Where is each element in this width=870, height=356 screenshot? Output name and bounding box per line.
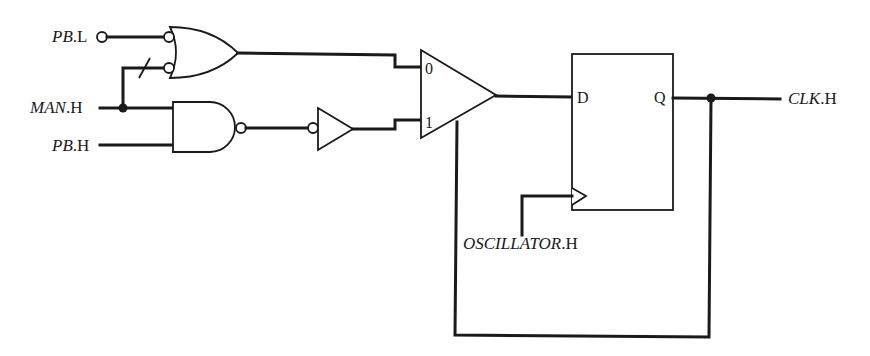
ff-d-label: D xyxy=(577,89,589,106)
buffer-gate xyxy=(308,108,353,150)
d-flipflop: D Q xyxy=(572,54,673,210)
circuit-diagram: PB.L MAN.H PB.H 0 1 D Q xyxy=(0,0,870,356)
junction-dot-man xyxy=(119,104,128,113)
or-input-bubble-a xyxy=(164,32,174,42)
or-gate xyxy=(164,27,238,78)
label-pb-l: PB.L xyxy=(51,27,87,46)
wire-man-to-or xyxy=(123,68,164,108)
mux-input-1-label: 1 xyxy=(425,114,433,131)
label-man-h: MAN.H xyxy=(29,98,82,117)
label-oscillator-h: OSCILLATOR.H xyxy=(463,234,578,253)
buffer-input-bubble xyxy=(308,123,318,133)
wire-q-to-clk xyxy=(673,98,780,99)
or-input-bubble-b xyxy=(164,63,174,73)
wire-buffer-to-mux1 xyxy=(353,120,421,129)
wire-mux-to-d xyxy=(496,96,572,97)
label-clk-h: CLK.H xyxy=(788,89,837,108)
wire-oscillator xyxy=(522,196,572,235)
mux-input-0-label: 0 xyxy=(425,60,433,77)
ff-q-label: Q xyxy=(654,89,666,106)
wire-or-to-mux0 xyxy=(238,53,421,67)
nand-gate xyxy=(173,102,246,152)
label-pb-h: PB.H xyxy=(51,136,89,155)
multiplexer: 0 1 xyxy=(421,50,496,138)
